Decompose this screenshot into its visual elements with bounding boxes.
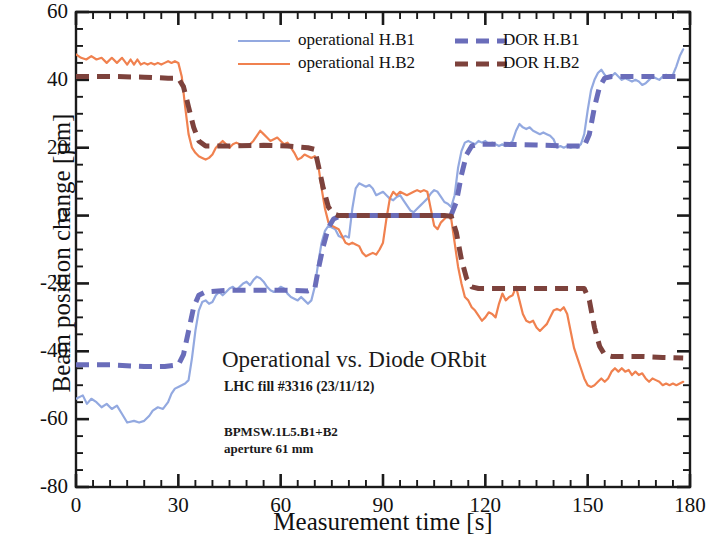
y-tick-label: 40 [8, 67, 68, 92]
annotation-bpm: BPMSW.1L5.B1+B2 [224, 424, 338, 440]
legend-label-operational-b2: operational H.B2 [298, 53, 415, 73]
legend-label-dor-b2: DOR H.B2 [503, 53, 580, 73]
x-tick-label: 120 [455, 493, 515, 518]
plot-canvas [0, 0, 708, 545]
annotation-aperture: aperture 61 mm [224, 441, 313, 457]
x-tick-label: 180 [660, 493, 708, 518]
x-tick-label: 60 [251, 493, 311, 518]
x-tick-label: 0 [46, 493, 106, 518]
y-axis-title: Beam position change [µm] [48, 43, 76, 463]
y-tick-label: 0 [8, 203, 68, 228]
x-tick-label: 30 [148, 493, 208, 518]
legend-label-dor-b1: DOR H.B1 [503, 30, 580, 50]
y-tick-label: -20 [8, 270, 68, 295]
chart-figure: Beam position change [µm] Measurement ti… [0, 0, 708, 545]
x-tick-label: 90 [353, 493, 413, 518]
y-tick-label: 60 [8, 0, 68, 24]
y-tick-label: -40 [8, 338, 68, 363]
y-tick-label: -60 [8, 406, 68, 431]
y-tick-label: 20 [8, 135, 68, 160]
annotation-fill: LHC fill #3316 (23/11/12) [224, 379, 375, 395]
annotation-title: Operational vs. Diode ORbit [222, 347, 486, 373]
x-tick-label: 150 [558, 493, 618, 518]
plot-frame [76, 12, 690, 487]
legend-label-operational-b1: operational H.B1 [298, 30, 415, 50]
